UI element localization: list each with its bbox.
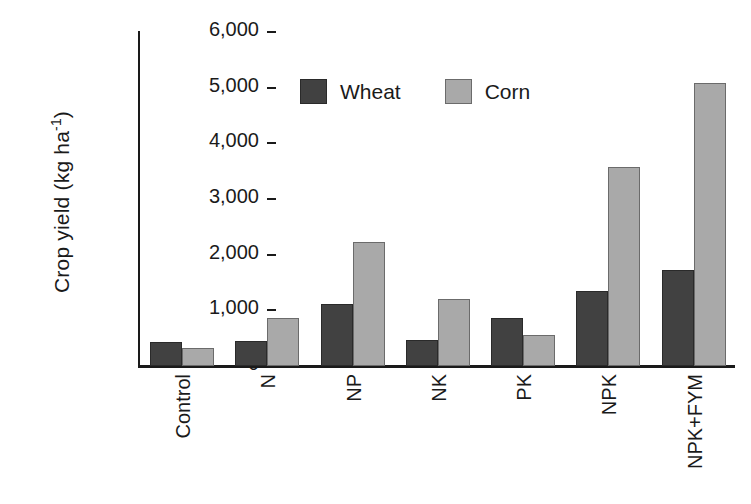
bar-wheat-nk [406, 340, 438, 366]
bar-wheat-control [150, 342, 182, 366]
bar-group [662, 32, 726, 366]
bar-corn-np [353, 242, 385, 366]
bar-corn-npk-plus-fym [694, 83, 726, 366]
x-axis-label-n: N [257, 374, 280, 494]
bar-corn-npk [608, 167, 640, 366]
bar-wheat-npk-plus-fym [662, 270, 694, 366]
x-axis-label-np: NP [343, 374, 366, 494]
legend-label-corn: Corn [485, 80, 531, 104]
y-axis-title-base: Crop yield (kg ha [50, 131, 73, 293]
bar-corn-nk [438, 299, 470, 366]
legend-swatch-wheat [300, 79, 327, 104]
bar-group [235, 32, 299, 366]
bar-wheat-pk [491, 318, 523, 366]
bar-wheat-np [321, 304, 353, 366]
x-axis-label-control: Control [172, 374, 195, 494]
legend-entry-wheat: Wheat [300, 79, 401, 104]
legend-entry-corn: Corn [445, 79, 531, 104]
bar-group [150, 32, 214, 366]
chart-legend: WheatCorn [300, 79, 530, 104]
x-axis-label-nk: NK [428, 374, 451, 494]
crop-yield-bar-chart: Crop yield (kg ha-1) 01,0002,0003,0004,0… [0, 0, 751, 504]
x-axis-label-npk-plus-fym: NPK+FYM [684, 374, 707, 494]
legend-swatch-corn [445, 79, 472, 104]
y-axis-title: Crop yield (kg ha-1) [50, 52, 74, 352]
x-axis-label-npk: NPK [598, 374, 621, 494]
x-axis-label-pk: PK [513, 374, 536, 494]
bar-wheat-npk [576, 291, 608, 366]
bar-corn-pk [523, 335, 555, 366]
bar-wheat-n [235, 341, 267, 366]
bar-group [576, 32, 640, 366]
bar-corn-control [182, 348, 214, 366]
y-axis-title-exponent: -1 [48, 118, 64, 131]
legend-label-wheat: Wheat [340, 80, 401, 104]
bar-corn-n [267, 318, 299, 366]
y-axis-title-close: ) [50, 111, 73, 118]
